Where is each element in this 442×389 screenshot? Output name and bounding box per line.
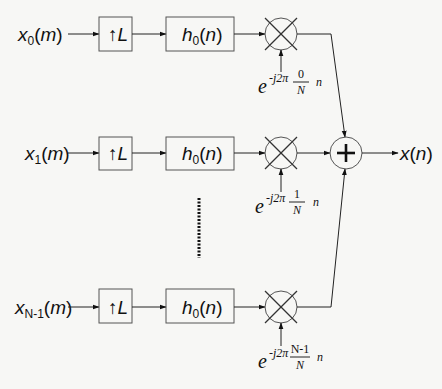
upsampler-label-n-1: ↑L <box>108 297 128 318</box>
input-signal-0: x0(m) <box>17 24 63 48</box>
upsampler-label-1: ↑L <box>108 143 128 164</box>
svg-text:N: N <box>296 83 306 97</box>
svg-text:-j2π: -j2π <box>269 346 289 360</box>
upsampler-label-0: ↑L <box>108 24 128 45</box>
modulator-label-1: e -j2π 1 N n <box>255 187 319 217</box>
summer <box>330 137 362 169</box>
svg-text:N: N <box>295 358 305 372</box>
modulator-label-n-1: e -j2π N-1 N n <box>258 342 323 372</box>
svg-text:e: e <box>255 195 264 217</box>
input-signal-n-1: xN-1(m) <box>14 297 72 321</box>
filter-label-0: h0(n) <box>182 24 223 48</box>
multiplier-0 <box>265 18 297 50</box>
output-signal: x(n) <box>399 143 433 164</box>
svg-text:N-1: N-1 <box>291 342 310 356</box>
svg-text:n: n <box>317 350 323 364</box>
wire-multiplier-to-summer-n-1 <box>297 169 345 307</box>
filter-label-1: h0(n) <box>182 143 223 167</box>
svg-text:e: e <box>258 350 267 372</box>
multiplier-1 <box>265 137 297 169</box>
svg-text:e: e <box>258 75 267 97</box>
polyphase-synthesis-diagram: x0(m) ↑L h0(n) e -j2π 0 N n x1(m) <box>0 0 442 389</box>
svg-text:n: n <box>313 195 319 209</box>
modulator-label-0: e -j2π 0 N n <box>258 67 322 97</box>
svg-text:-j2π: -j2π <box>269 71 289 85</box>
input-signal-1: x1(m) <box>24 143 70 167</box>
multiplier-n-1 <box>265 291 297 323</box>
branch-0: x0(m) ↑L h0(n) e -j2π 0 N n <box>17 17 345 137</box>
svg-text:N: N <box>292 203 302 217</box>
filter-label-n-1: h0(n) <box>182 297 223 321</box>
svg-text:1: 1 <box>294 187 300 201</box>
svg-text:-j2π: -j2π <box>266 191 286 205</box>
branch-1: x1(m) ↑L h0(n) e -j2π 1 N n <box>24 137 330 217</box>
svg-text:0: 0 <box>298 67 304 81</box>
svg-text:n: n <box>316 75 322 89</box>
